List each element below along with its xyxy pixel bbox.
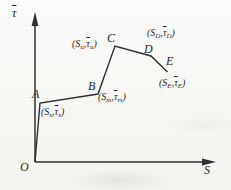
point-letter-A: A [32,88,39,100]
coord-close: ) [182,77,185,88]
y-axis-label: τ [12,7,16,19]
point-letter-D: D [144,43,153,55]
point-B-coordinates: (Sm,τm) [98,92,126,102]
figure-canvas: τ S O A B C D E (Ss,τs) (Sm,τm) (Su,τu) … [0,0,231,190]
x-axis-label: S [204,164,210,176]
point-A-coordinates: (Ss,τs) [41,107,64,117]
point-letter-C: C [107,32,115,44]
origin-label: O [20,161,29,173]
curve-polyline [35,46,168,162]
coord-close: ) [61,106,64,117]
coord-close: ) [93,38,96,49]
coord-close: ) [123,91,126,102]
point-letter-B: B [88,80,95,92]
point-E-coordinates: (SE,τE) [159,78,185,88]
coord-close: ) [172,27,175,38]
point-D-coordinates: (SD,τD) [147,28,175,38]
y-axis-label-text: τ [12,6,16,20]
point-letter-E: E [166,55,173,67]
point-C-coordinates: (Su,τu) [72,39,97,49]
y-axis-arrow-icon [32,12,39,26]
